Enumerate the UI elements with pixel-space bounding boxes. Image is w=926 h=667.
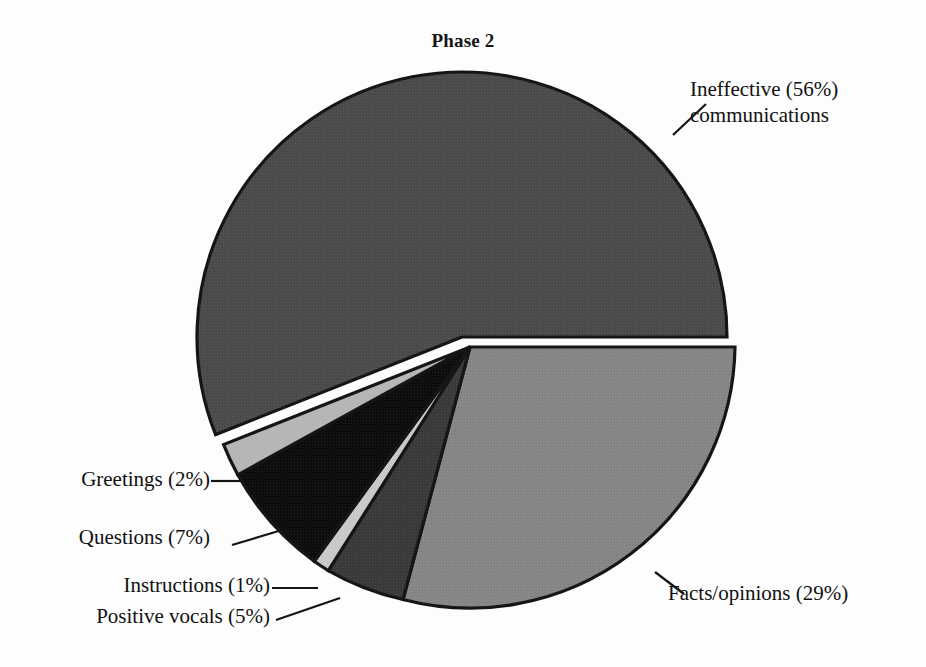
leader-line-questions — [232, 530, 282, 545]
slice-label-positive-vocals-text: Positive vocals (5%) — [96, 604, 270, 628]
slice-label-positive-vocals: Positive vocals (5%) — [26, 603, 270, 629]
slice-label-ineffective-line1: Ineffective (56%) — [690, 77, 838, 101]
slice-label-instructions: Instructions (1%) — [60, 572, 270, 598]
slice-label-facts-opinions: Facts/opinions (29%) — [668, 580, 848, 606]
pie-chart-figure: Phase 2 — [0, 0, 926, 667]
slice-label-ineffective-line2: communications — [690, 102, 838, 128]
slice-label-instructions-text: Instructions (1%) — [124, 573, 270, 597]
leader-line-positive-vocals — [276, 598, 340, 620]
slice-label-facts-opinions-text: Facts/opinions (29%) — [668, 581, 848, 605]
slice-label-questions-text: Questions (7%) — [79, 525, 210, 549]
slice-label-questions: Questions (7%) — [24, 524, 210, 550]
slice-label-greetings-text: Greetings (2%) — [81, 467, 210, 491]
slice-label-greetings: Greetings (2%) — [34, 466, 210, 492]
slice-label-ineffective-communications: Ineffective (56%) communications — [690, 76, 838, 128]
